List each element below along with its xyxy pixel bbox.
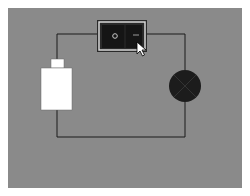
battery-terminal <box>51 59 64 68</box>
battery-body <box>41 68 72 110</box>
circuit-diagram <box>0 0 250 196</box>
lamp[interactable] <box>169 70 201 102</box>
battery[interactable] <box>41 59 72 110</box>
